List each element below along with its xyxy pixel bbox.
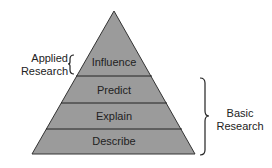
applied-line2: Research [14, 65, 68, 78]
level-predict: Predict [84, 84, 144, 97]
applied-research-label: Applied Research [14, 52, 68, 78]
applied-bracket-icon [68, 55, 74, 74]
level-describe: Describe [84, 135, 144, 148]
pyramid-shape [32, 11, 195, 154]
basic-line2: Research [210, 120, 270, 133]
level-explain: Explain [84, 110, 144, 123]
level-influence: Influence [84, 56, 144, 69]
basic-research-label: Basic Research [210, 107, 270, 133]
applied-line1: Applied [14, 52, 68, 65]
basic-bracket-icon [200, 78, 209, 155]
basic-line1: Basic [210, 107, 270, 120]
